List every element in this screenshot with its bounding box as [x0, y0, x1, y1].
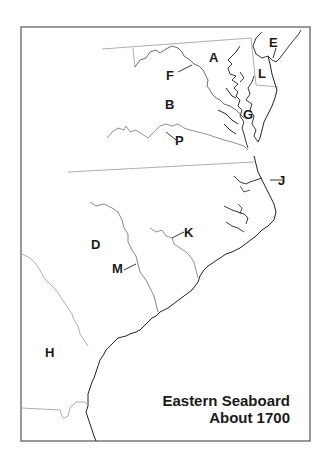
maryland-west-boundary [133, 48, 135, 67]
label-E: E [269, 36, 278, 49]
label-D: D [91, 238, 100, 251]
chesapeake-tributary [218, 110, 238, 124]
map-title-line2: About 1700 [162, 409, 290, 426]
ga-fl-boundary [21, 402, 88, 418]
pamlico-sound [224, 206, 248, 224]
map-frame [21, 27, 310, 441]
f-pointer [178, 65, 192, 72]
label-F: F [166, 69, 174, 82]
pee-dee-river [90, 202, 158, 312]
va-nc-boundary [68, 162, 254, 172]
chesapeake-west-shore [228, 46, 248, 148]
sound-inlet [240, 186, 250, 192]
label-B: B [165, 98, 174, 111]
potomac-river [135, 46, 244, 118]
chesapeake-tributary [240, 72, 244, 82]
chesapeake-tributary [226, 88, 236, 98]
label-A: A [209, 51, 218, 64]
label-J: J [278, 174, 285, 187]
label-G: G [243, 108, 253, 121]
albemarle-sound [234, 176, 262, 184]
map-title-line1: Eastern Seaboard [162, 392, 290, 409]
savannah-river [22, 254, 88, 346]
label-P: P [175, 134, 184, 147]
sound-inlet [226, 222, 244, 232]
m-pointer [124, 264, 136, 270]
map-title: Eastern Seaboard About 1700 [162, 392, 290, 426]
label-H: H [45, 346, 54, 359]
nc-coast [198, 156, 276, 282]
label-M: M [112, 262, 123, 275]
chesapeake-tributary [224, 124, 236, 134]
label-L: L [258, 67, 266, 80]
label-K: K [184, 226, 193, 239]
k-pointer [172, 232, 184, 238]
